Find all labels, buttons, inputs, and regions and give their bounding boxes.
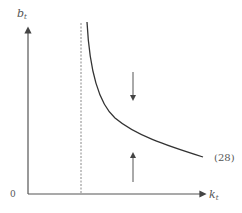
phase-diagram: bt kt 0 (28) — [0, 0, 242, 213]
x-axis-label: kt — [209, 188, 219, 202]
curve-label: (28) — [214, 152, 235, 163]
origin-label: 0 — [10, 189, 16, 199]
curve-28 — [87, 22, 203, 157]
y-axis-label: bt — [17, 7, 27, 21]
